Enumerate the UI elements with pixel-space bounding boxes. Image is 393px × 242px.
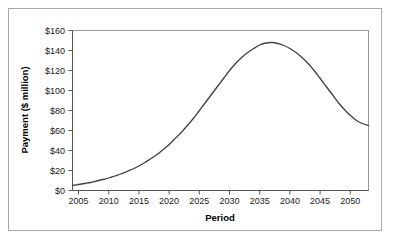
y-axis-tick-labels: $0 $20 $40 $60 $80 $100 $120 $140 $160 <box>45 26 65 196</box>
x-axis-ticks <box>79 191 351 195</box>
y-tick-label: $40 <box>50 146 65 156</box>
y-tick-label: $20 <box>50 166 65 176</box>
y-tick-label: $120 <box>45 66 65 76</box>
x-axis-title: Period <box>205 212 235 223</box>
y-tick-label: $0 <box>55 186 65 196</box>
x-tick-label: 2010 <box>99 196 119 206</box>
plot-area <box>73 31 369 191</box>
y-axis-title: Payment ($ million) <box>19 66 30 153</box>
x-tick-label: 2025 <box>189 196 209 206</box>
chart-figure: $0 $20 $40 $60 $80 $100 $120 $140 $160 2… <box>0 0 393 242</box>
x-tick-label: 2015 <box>129 196 149 206</box>
x-tick-label: 2005 <box>68 196 88 206</box>
y-axis-ticks <box>69 31 73 191</box>
y-tick-label: $100 <box>45 86 65 96</box>
line-chart: $0 $20 $40 $60 $80 $100 $120 $140 $160 2… <box>0 0 393 242</box>
x-tick-label: 2040 <box>280 196 300 206</box>
y-tick-label: $140 <box>45 46 65 56</box>
x-tick-label: 2045 <box>310 196 330 206</box>
y-tick-label: $160 <box>45 26 65 36</box>
x-tick-label: 2030 <box>219 196 239 206</box>
y-tick-label: $80 <box>50 106 65 116</box>
x-tick-label: 2020 <box>159 196 179 206</box>
x-tick-label: 2035 <box>250 196 270 206</box>
y-tick-label: $60 <box>50 126 65 136</box>
x-axis-tick-labels: 2005 2010 2015 2020 2025 2030 2035 2040 … <box>68 196 360 206</box>
x-tick-label: 2050 <box>340 196 360 206</box>
